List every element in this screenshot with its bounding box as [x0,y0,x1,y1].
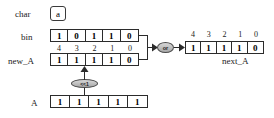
new-a-index-cell: 4 [50,44,68,53]
new-a-index-cell: 0 [121,44,139,53]
char-value: a [56,9,60,19]
new-a-index-cell: 2 [86,44,104,53]
a-bit-cell: 1 [109,96,128,107]
new-a-index-cell: 1 [103,44,121,53]
bin-bit-cell: 1 [86,30,103,41]
next-a-label: next_A [222,57,249,66]
bin-bit-cell: 1 [51,30,68,41]
char-label: char [15,10,31,19]
a-bit-array: 11111 [50,95,148,108]
new-a-bit-cell: 1 [68,54,85,65]
bin-bit-cell: 1 [103,30,120,41]
next-a-index-cell: 1 [232,30,248,39]
a-bit-cell: 1 [51,96,70,107]
shift-operator-label: <<1 [80,81,89,87]
bin-label: bin [21,33,33,42]
new-a-label: new_A [8,57,34,66]
shift-to-newa-arrowhead [80,66,89,73]
next-a-bit-cell: 1 [217,42,232,53]
next-a-index-cell: 3 [201,30,217,39]
next-a-index-row: 43210 [185,30,264,39]
a-label: A [31,99,38,108]
new-a-bit-cell: 1 [51,54,68,65]
or-operator: or [157,42,174,53]
bin-bit-cell: 0 [121,30,138,41]
diagram-canvas: char a bin 10110 43210 new_A 11110 <<1 A… [0,0,274,118]
new-a-bit-cell: 1 [86,54,103,65]
next-a-bit-cell: 0 [248,42,263,53]
next-a-index-cell: 0 [248,30,264,39]
a-bit-cell: 1 [89,96,108,107]
next-a-index-cell: 4 [185,30,201,39]
a-bit-cell: 1 [70,96,89,107]
bin-bit-cell: 0 [68,30,85,41]
next-a-bit-array: 11110 [185,41,264,54]
new-a-bit-cell: 0 [121,54,138,65]
next-a-bit-cell: 1 [186,42,201,53]
shift-left-operator: <<1 [71,79,98,88]
new-a-index-row: 43210 [50,44,139,53]
or-operator-label: or [163,45,169,51]
bin-bit-array: 10110 [50,29,139,42]
char-value-box: a [50,6,66,21]
next-a-bit-cell: 1 [232,42,247,53]
new-a-bit-cell: 1 [103,54,120,65]
new-a-index-cell: 3 [68,44,86,53]
next-a-bit-cell: 1 [201,42,216,53]
new-a-bit-array: 11110 [50,53,139,66]
next-a-index-cell: 2 [217,30,233,39]
a-bit-cell: 1 [128,96,147,107]
